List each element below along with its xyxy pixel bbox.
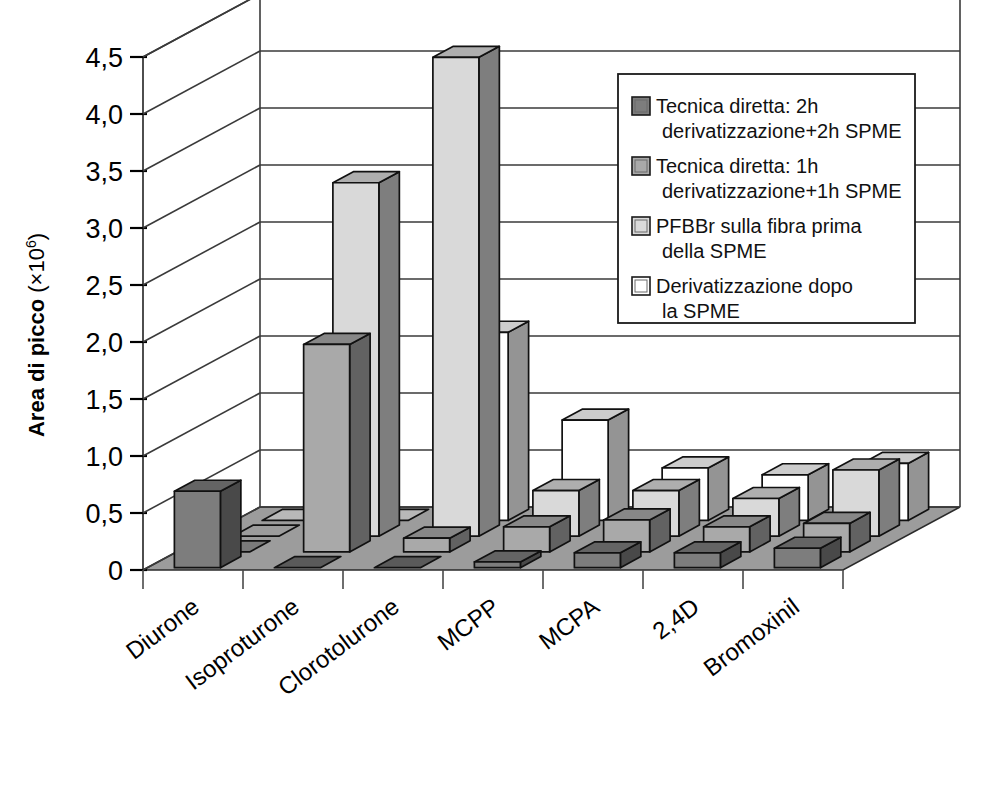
gridline-connector [143, 51, 260, 114]
bar-front-face [504, 527, 550, 552]
x-axis-tick-label-text: MCPA [534, 592, 604, 654]
y-axis-tick-label: 4,5 [85, 43, 123, 73]
y-axis-title-main: Area di picco [24, 293, 49, 437]
three-d-bar-chart: 00,51,01,52,02,53,03,54,04,5Area di picc… [0, 0, 1007, 794]
bar-front-face [774, 548, 820, 567]
bar-diurone-series-1 [174, 480, 240, 567]
x-axis-tick-label: MCPA [534, 592, 604, 654]
x-axis-group: DiuroneIsoproturoneClorotoluroneMCPPMCPA… [121, 570, 843, 701]
bar-front-face [304, 344, 350, 551]
bar-mcpp-series-2 [504, 516, 570, 552]
legend-label-line2-3: della SPME [662, 240, 767, 262]
chart-root: 00,51,01,52,02,53,03,54,04,5Area di picc… [0, 0, 1007, 794]
gridline-connector [143, 222, 260, 285]
x-axis-tick-label: 2,4D [647, 592, 704, 644]
legend-label-line2-4: la SPME [662, 300, 740, 322]
y-axis-tick-label: 3,0 [85, 214, 123, 244]
y-axis-tick-label: 1,5 [85, 385, 123, 415]
y-axis-tick-label: 0,5 [85, 499, 123, 529]
bar-front-face [574, 553, 620, 568]
y-axis-tick-label: 0 [108, 556, 123, 586]
bar-side-face [508, 321, 528, 520]
legend-label-line1-4: Derivatizzazione dopo [656, 275, 853, 297]
x-axis-tick-label-text: Bromoxinil [698, 592, 804, 681]
x-axis-tick-label-text: MCPP [432, 592, 504, 655]
gridline-connector [143, 279, 260, 342]
y-axis-tick-label: 2,5 [85, 271, 123, 301]
bar-isoproturone-series-2 [304, 333, 370, 552]
y-axis-title-text: Area di picco (×106) [23, 233, 49, 437]
y-axis-tick-label: 4,0 [85, 100, 123, 130]
x-axis-tick-label-text: Diurone [121, 592, 204, 664]
x-axis-tick-label-text: 2,4D [647, 592, 704, 644]
y-axis-tick-label: 1,0 [85, 442, 123, 472]
x-axis-tick-label: MCPP [432, 592, 504, 655]
legend-label-line1-2: Tecnica diretta: 1h [656, 155, 818, 177]
bar-side-face [220, 480, 240, 567]
gridline-connector [143, 393, 260, 456]
bar-front-face [474, 562, 520, 568]
legend-label-line1-1: Tecnica diretta: 2h [656, 95, 818, 117]
legend: Tecnica diretta: 2hderivatizzazione+2h S… [618, 74, 915, 323]
bar-side-face [350, 333, 370, 552]
gridline-connector [143, 108, 260, 171]
legend-label-line2-2: derivatizzazione+1h SPME [662, 180, 902, 202]
bar-clorotolurone-series-3 [433, 46, 499, 536]
x-axis-tick-label: Diurone [121, 592, 204, 664]
bar-side-face [379, 172, 399, 536]
bar-front-face [174, 491, 220, 567]
y-axis-title-exponent: 6 [23, 240, 39, 248]
y-axis-title: Area di picco (×106) [23, 233, 49, 437]
bar-side-face [608, 409, 628, 520]
bar-front-face [433, 57, 479, 536]
y-axis-tick-label: 3,5 [85, 157, 123, 187]
gridline-connector [143, 165, 260, 228]
legend-label-line1-3: PFBBr sulla fibra prima [656, 215, 862, 237]
y-axis-title-unit: (×10 [24, 248, 49, 293]
bar-front-face [674, 553, 720, 568]
bar-side-face [879, 459, 899, 536]
y-axis-tick-label: 2,0 [85, 328, 123, 358]
bar-side-face [479, 46, 499, 536]
bar-front-face [404, 538, 450, 552]
y-axis-title-close: ) [24, 233, 49, 240]
x-axis-tick-label: Bromoxinil [698, 592, 804, 681]
gridline-connector [143, 336, 260, 399]
legend-label-line2-1: derivatizzazione+2h SPME [662, 120, 902, 142]
gridline-connector [143, 0, 260, 57]
